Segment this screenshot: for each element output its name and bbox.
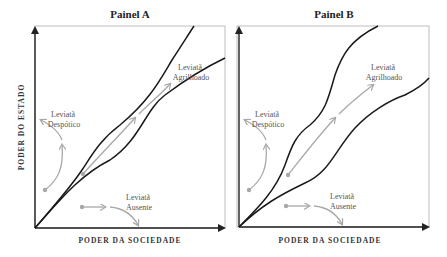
shackled-trajectory-arrow-2	[339, 85, 373, 114]
panel-title: Painel A	[110, 8, 149, 20]
region-label-absent: Leviatã Ausente	[330, 192, 357, 211]
x-axis-label: PODER DA SOCIEDADE	[78, 236, 181, 245]
panel-b: Painel B PODER DA SOCIEDADE Leviatã Desp…	[237, 8, 429, 245]
diagram-canvas: Painel A PODER DO ESTADO PODER DA SOCIED…	[0, 0, 447, 257]
x-axis-label: PODER DA SOCIEDADE	[278, 236, 381, 245]
panel-a: Painel A PODER DO ESTADO PODER DA SOCIED…	[17, 8, 225, 245]
region-label-despotic: Leviatã Despótico	[252, 110, 284, 129]
y-axis-label: PODER DO ESTADO	[17, 84, 26, 171]
despotic-trajectory-arrow-1	[45, 145, 62, 190]
region-label-shackled: Leviatã Agrilhoado	[366, 63, 402, 82]
shackled-trajectory-arrow-1	[288, 118, 335, 175]
panel-title: Painel B	[314, 8, 354, 20]
region-label-shackled: Leviatã Agrilhoado	[173, 63, 209, 82]
region-label-absent: Leviatã Ausente	[126, 193, 153, 212]
region-label-despotic: Leviatã Despótico	[48, 110, 80, 129]
despotic-trajectory-arrow-1	[249, 145, 266, 190]
